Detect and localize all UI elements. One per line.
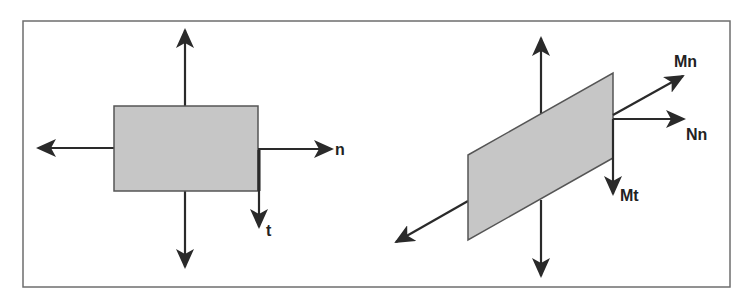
rectangular-element (114, 106, 258, 191)
right-diagram: Mn Nn Mt (396, 38, 707, 276)
label-nn: Nn (686, 126, 707, 143)
label-t: t (266, 222, 272, 239)
moment-normal-arrow-icon (613, 76, 683, 115)
stress-element-diagram: n t Mn Nn Mt (0, 0, 753, 297)
label-mt: Mt (620, 187, 639, 204)
label-n: n (335, 141, 345, 158)
arrow-diagonal-icon (396, 201, 468, 242)
label-mn: Mn (674, 53, 697, 70)
left-diagram: n t (38, 30, 345, 267)
